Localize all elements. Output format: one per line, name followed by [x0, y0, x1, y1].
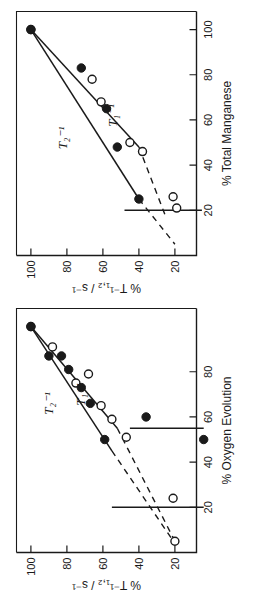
data-point-t2 [26, 25, 34, 33]
x-tick-label: 20 [201, 204, 213, 216]
series-label-t2: T₂⁻¹ [40, 391, 55, 414]
data-point-t1 [169, 192, 177, 200]
fit-line-t2 [30, 326, 111, 450]
data-point-t2 [199, 435, 207, 443]
x-tick-label: 60 [201, 410, 213, 422]
data-point-t1 [107, 415, 115, 423]
panel-total-manganese: 2040608010020406080100% Total Manganese%… [0, 0, 262, 297]
y-tick-label: 80 [60, 557, 72, 569]
data-point-t1 [169, 494, 177, 502]
data-point-t1 [84, 370, 92, 378]
fit-line-t1-extension [138, 147, 165, 217]
data-point-t2 [134, 194, 142, 202]
data-point-t2 [77, 63, 85, 71]
y-tick-label: 40 [132, 260, 144, 272]
figure-two-panel-nmr-relaxation: 2040608010020406080100% Total Manganese%… [0, 0, 262, 594]
data-point-t1 [125, 138, 133, 146]
data-point-t2 [44, 351, 52, 359]
data-point-t1 [170, 537, 178, 545]
plot-group: 2040608010020406080100% Total Manganese%… [16, 11, 233, 294]
panel-top-rotation-wrapper: 2040608010020406080100% Total Manganese%… [0, 0, 262, 297]
panel-oxygen-evolution: 2040608010020406080% Oxygen Evolution% T… [0, 297, 262, 594]
plot-group: 2040608010020406080% Oxygen Evolution% T… [16, 308, 233, 591]
x-tick-label: 60 [201, 113, 213, 125]
fit-line-t1-extension [117, 428, 175, 541]
x-axis-label: % Oxygen Evolution [219, 376, 233, 484]
x-tick-label: 80 [201, 68, 213, 80]
y-tick-label: 100 [24, 557, 36, 575]
series-label-t1: T₁⁻¹ [105, 104, 120, 127]
data-point-t2 [113, 142, 121, 150]
y-tick-label: 100 [24, 260, 36, 278]
data-point-t1 [122, 433, 130, 441]
fit-line-t2 [30, 29, 138, 198]
panel-bottom-rotation-wrapper: 2040608010020406080% Oxygen Evolution% T… [0, 297, 262, 594]
x-tick-label: 40 [201, 456, 213, 468]
y-tick-label: 80 [60, 260, 72, 272]
plot-canvas-bottom: 2040608010020406080% Oxygen Evolution% T… [0, 297, 262, 594]
y-tick-label: 20 [168, 557, 180, 569]
data-point-t1 [97, 97, 105, 105]
data-point-t1 [88, 75, 96, 83]
y-axis-label-group: % T⁻¹₁,₂ / s⁻¹ [71, 280, 140, 294]
y-axis-label: % T⁻¹₁,₂ / s⁻¹ [71, 280, 140, 294]
series-label-t1: T₁⁻¹ [72, 382, 87, 405]
fit-line-t1 [30, 29, 138, 146]
y-axis-label: % T⁻¹₁,₂ / s⁻¹ [71, 577, 140, 591]
data-point-t1 [172, 204, 180, 212]
y-tick-label: 60 [96, 557, 108, 569]
data-point-t2 [100, 435, 108, 443]
y-axis-label-group: % T⁻¹₁,₂ / s⁻¹ [71, 577, 140, 591]
fit-line-t2-extension [138, 199, 174, 244]
data-point-t2 [141, 412, 149, 420]
x-tick-label: 40 [201, 159, 213, 171]
x-tick-label: 80 [201, 365, 213, 377]
y-tick-label: 60 [96, 260, 108, 272]
y-tick-label: 20 [168, 260, 180, 272]
y-tick-label: 40 [132, 557, 144, 569]
data-point-t1 [48, 342, 56, 350]
plot-canvas-top: 2040608010020406080100% Total Manganese%… [0, 0, 262, 297]
series-label-t2: T₂⁻¹ [54, 126, 69, 149]
x-axis-label: % Total Manganese [219, 80, 233, 186]
data-point-t1 [97, 401, 105, 409]
data-point-t2 [26, 322, 34, 330]
fit-line-t2-extension [111, 450, 174, 543]
x-tick-label: 100 [201, 20, 213, 38]
data-point-t2 [57, 351, 65, 359]
data-point-t1 [138, 147, 146, 155]
